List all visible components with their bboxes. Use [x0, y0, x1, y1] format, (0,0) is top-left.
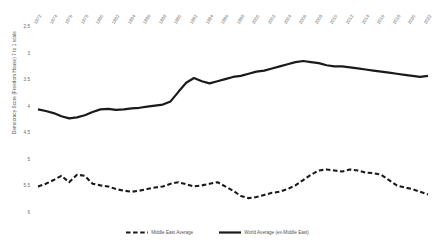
democracy-score-line-chart: Democracy Score (Freedom House) 7 to 1 s… — [0, 0, 435, 241]
legend-swatch-solid — [219, 230, 241, 235]
chart-legend: Middle East AverageWorld Average (ex-Mid… — [0, 230, 435, 235]
series-line-solid — [38, 61, 428, 118]
legend-item[interactable]: Middle East Average — [126, 230, 193, 235]
legend-label: Middle East Average — [151, 230, 193, 235]
series-line-dashed — [38, 169, 428, 198]
plot-area — [0, 0, 435, 241]
legend-swatch-dashed — [126, 230, 148, 235]
legend-label: World Average (ex-Middle East) — [244, 230, 309, 235]
legend-item[interactable]: World Average (ex-Middle East) — [219, 230, 309, 235]
